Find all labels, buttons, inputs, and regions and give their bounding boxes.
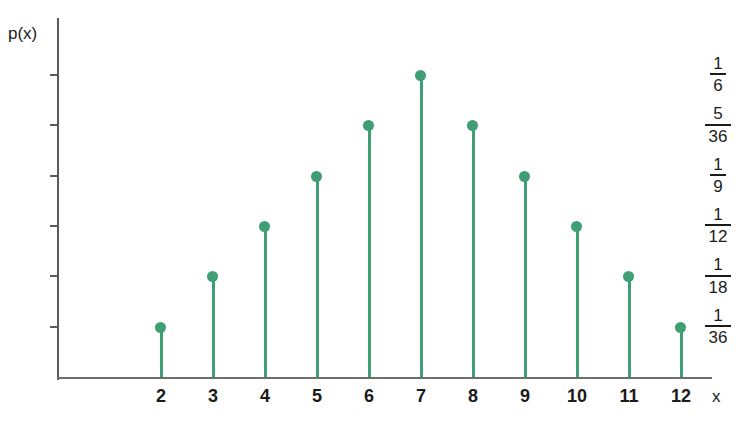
data-point [259,221,270,232]
stem-line [212,276,215,377]
fraction-bar [705,224,731,226]
x-axis-tick-label: 10 [557,387,597,407]
x-axis-tick-label: 9 [505,387,545,407]
data-point [311,171,322,182]
y-axis-tick-label: 16 [696,55,740,95]
x-axis-title: x [712,388,721,405]
data-point [207,271,218,282]
x-axis-tick-label: 7 [401,387,441,407]
fraction-numerator: 5 [705,105,731,123]
y-axis-tick [50,74,59,76]
y-axis-tick-label: 19 [696,156,740,196]
fraction-denominator: 36 [705,328,731,346]
y-axis-tick [50,326,59,328]
stem-line [628,276,631,377]
stem-line [368,125,371,377]
data-point [623,271,634,282]
data-point [415,70,426,81]
fraction-numerator: 1 [710,156,726,174]
x-axis-tick-label: 6 [349,387,389,407]
y-axis-title: p(x) [8,25,37,42]
fraction-numerator: 1 [705,206,731,224]
fraction-denominator: 12 [705,227,731,245]
y-axis-tick [50,275,59,277]
x-axis-tick-label: 2 [141,387,181,407]
y-axis-tick [50,175,59,177]
y-axis-tick [50,124,59,126]
fraction-numerator: 1 [710,55,726,73]
fraction-denominator: 6 [710,76,726,94]
x-axis-tick-label: 8 [453,387,493,407]
fraction-numerator: 1 [705,307,731,325]
y-axis-tick [50,225,59,227]
stem-line [680,327,683,377]
stem-line [316,176,319,377]
stem-line [576,226,579,377]
fraction-bar [705,325,731,327]
x-axis-tick-label: 11 [609,387,649,407]
stem-line [264,226,267,377]
y-axis-tick-label: 136 [696,307,740,347]
stem-line [524,176,527,377]
x-axis-line [57,377,712,379]
data-point [675,322,686,333]
fraction-numerator: 1 [705,256,731,274]
x-axis-tick-label: 5 [297,387,337,407]
stem-line [472,125,475,377]
stem-line [420,75,423,377]
probability-mass-function-chart: p(x) x 1653619112118136 23456789101112 [0,0,740,427]
fraction-bar [705,124,731,126]
fraction-bar [710,174,726,176]
data-point [363,120,374,131]
y-axis-tick-label: 536 [696,105,740,145]
fraction-bar [705,275,731,277]
fraction-denominator: 9 [710,177,726,195]
data-point [155,322,166,333]
x-axis-tick-label: 4 [245,387,285,407]
x-axis-tick-label: 3 [193,387,233,407]
stem-line [160,327,163,377]
fraction-bar [710,73,726,75]
y-axis-tick-label: 112 [696,206,740,246]
fraction-denominator: 36 [705,127,731,145]
x-axis-tick-label: 12 [661,387,701,407]
y-axis-tick-label: 118 [696,256,740,296]
data-point [571,221,582,232]
data-point [519,171,530,182]
fraction-denominator: 18 [705,278,731,296]
data-point [467,120,478,131]
